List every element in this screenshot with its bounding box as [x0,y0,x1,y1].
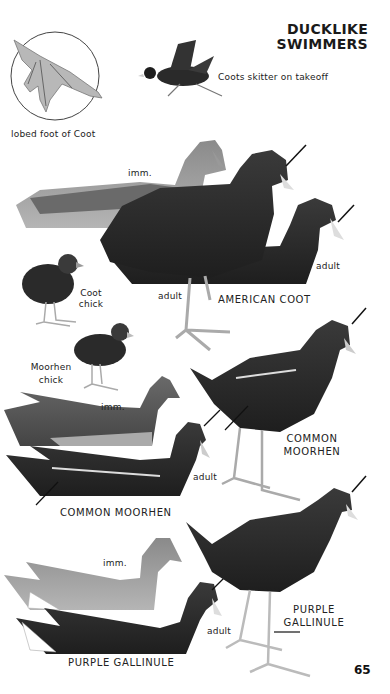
bill-arrow [286,145,306,166]
purple-gallinule-swimming-label: PURPLE GALLINULE [68,657,174,668]
coot-chick-label-line-1: Coot [76,288,106,299]
common-moorhen-swimming-label: COMMON MOORHEN [60,507,172,518]
bill-arrow [338,205,354,222]
coot-takeoff-illustration [138,40,222,96]
coot-adult-stand-label: adult [158,291,182,301]
common-moorhen-line-1: COMMON [282,432,342,445]
moorhen-chick-label: Moorhen chick [28,361,74,387]
common-moorhen-standing-label: COMMON MOORHEN [282,432,342,458]
moorhen-chick-illustration [74,323,134,390]
coot-chick-illustration [22,254,84,326]
american-coot-label: AMERICAN COOT [218,294,311,305]
purple-gallinule-standing-label: PURPLE GALLINULE [282,603,346,629]
coot-chick-label: Coot chick [76,288,106,310]
gallinule-adult-label: adult [207,626,231,636]
foot-caption: lobed foot of Coot [11,129,95,139]
coot-chick-label-line-2: chick [76,299,106,310]
gallinule-imm-label: imm. [103,558,127,568]
purple-gallinule-line-2: GALLINULE [282,616,346,629]
title-line-2: SWIMMERS [277,37,368,52]
moorhen-chick-label-line-1: Moorhen [28,361,74,374]
gallinule-adult-standing-illustration [186,488,358,676]
takeoff-caption: Coots skitter on takeoff [218,72,328,82]
illustration-plate [0,0,390,694]
title-line-1: DUCKLIKE [277,22,368,37]
gallinule-immature-illustration [4,538,182,610]
moorhen-chick-label-line-2: chick [28,374,74,387]
purple-gallinule-line-1: PURPLE [282,603,346,616]
coot-adult-swim-label: adult [316,261,340,271]
common-moorhen-line-2: MOORHEN [282,445,342,458]
page-title: DUCKLIKE SWIMMERS [277,22,368,52]
moorhen-adult-label: adult [193,472,217,482]
coot-imm-label: imm. [128,168,152,178]
page-number: 65 [354,663,371,677]
lobed-foot-inset [11,32,102,120]
moorhen-imm-label: imm. [101,402,125,412]
